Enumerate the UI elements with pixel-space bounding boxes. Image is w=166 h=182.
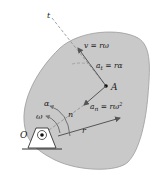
rigid-body-rotation-diagram: t v = rω at = rα A an = rω2 n r α ω O: [0, 0, 166, 182]
normal-axis-label: n: [68, 110, 73, 119]
angular-velocity-label: ω: [36, 112, 43, 121]
point-a-label: A: [110, 82, 118, 92]
angular-accel-label: α: [44, 99, 50, 108]
pivot-o-label: O: [20, 130, 28, 140]
tangent-axis-label: t: [47, 11, 51, 20]
tangential-accel-label: at = rα: [96, 61, 123, 71]
pivot-pin: [40, 133, 44, 137]
velocity-label: v = rω: [84, 41, 109, 50]
